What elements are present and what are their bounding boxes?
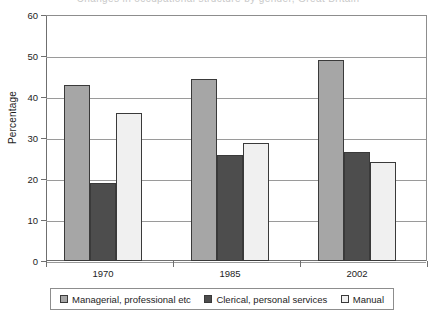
bar-1970-series-1 — [90, 183, 116, 261]
clipped-title-text: Changes in occupational structure by gen… — [77, 0, 360, 4]
gridline — [46, 262, 426, 263]
x-axis-tick-origin — [46, 261, 47, 267]
legend-swatch-icon — [341, 295, 349, 303]
x-axis-tick — [173, 261, 174, 267]
bar-2002-series-1 — [344, 152, 370, 261]
bar-1970-series-0 — [64, 85, 90, 261]
y-axis-tick-label: 50 — [2, 51, 38, 62]
x-axis-label-1970: 1970 — [73, 268, 133, 279]
y-axis-tick-label: 10 — [2, 215, 38, 226]
legend-label: Manual — [353, 294, 384, 305]
bar-2002-series-0 — [318, 60, 344, 261]
gridline — [46, 139, 426, 140]
legend-swatch-icon — [204, 295, 212, 303]
x-axis-label-1985: 1985 — [200, 268, 260, 279]
legend-label: Clerical, personal services — [216, 294, 327, 305]
bar-2002-series-2 — [370, 162, 396, 261]
clipped-title-strip: Changes in occupational structure by gen… — [0, 0, 436, 8]
bar-1985-series-0 — [191, 79, 217, 261]
y-axis-tick-label: 0 — [2, 256, 38, 267]
y-axis-tick-label: 60 — [2, 10, 38, 21]
plot-area — [46, 15, 427, 261]
gridline — [46, 57, 426, 58]
legend-item-2[interactable]: Manual — [341, 294, 384, 305]
y-axis-title: Percentage — [7, 68, 18, 168]
legend-item-0[interactable]: Managerial, professional etc — [60, 294, 191, 305]
legend-label: Managerial, professional etc — [72, 294, 191, 305]
gridline — [46, 98, 426, 99]
chart-legend: Managerial, professional etcClerical, pe… — [50, 288, 394, 310]
bar-1970-series-2 — [116, 113, 142, 261]
x-axis-label-2002: 2002 — [327, 268, 387, 279]
legend-item-1[interactable]: Clerical, personal services — [204, 294, 327, 305]
legend-swatch-icon — [60, 295, 68, 303]
x-axis-tick — [300, 261, 301, 267]
x-axis-tick — [427, 261, 428, 267]
bar-1985-series-2 — [243, 143, 269, 261]
y-axis-tick-label: 20 — [2, 174, 38, 185]
bar-chart-figure: Changes in occupational structure by gen… — [0, 0, 436, 321]
bar-1985-series-1 — [217, 155, 243, 261]
